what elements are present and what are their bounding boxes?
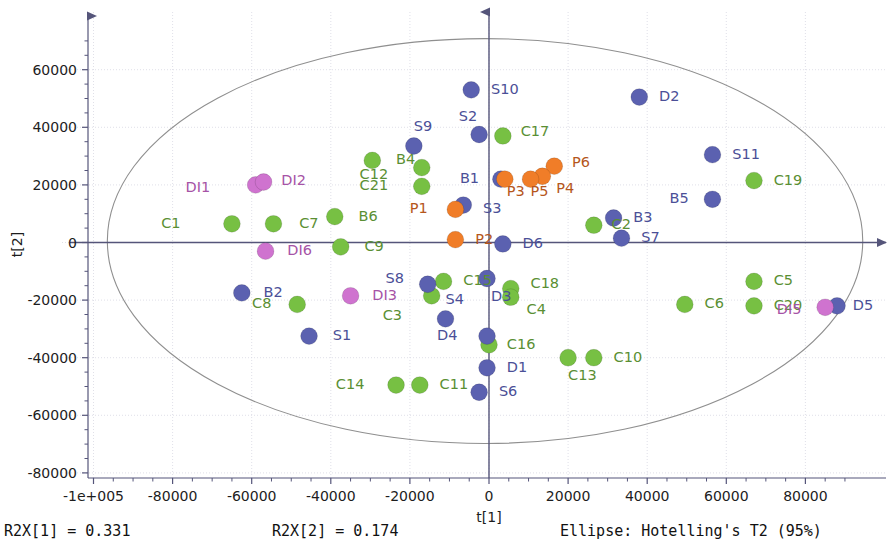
svg-text:0: 0	[485, 488, 494, 504]
svg-text:-40000: -40000	[27, 350, 77, 366]
data-point-di3	[342, 287, 359, 304]
svg-text:-80000: -80000	[148, 488, 198, 504]
data-point-label-c1: C1	[161, 215, 180, 231]
data-point-label-c5: C5	[774, 272, 793, 288]
svg-text:-60000: -60000	[27, 407, 77, 423]
data-point-c13	[560, 349, 577, 366]
data-point-c10	[585, 349, 602, 366]
svg-text:20000: 20000	[32, 177, 77, 193]
data-point-label-s2: S2	[459, 108, 477, 124]
data-point-label-c15: C15	[463, 272, 492, 288]
data-point-label-di3: DI3	[372, 287, 397, 303]
data-point-label-p6: P6	[572, 154, 590, 170]
svg-text:40000: 40000	[32, 119, 77, 135]
svg-text:-40000: -40000	[306, 488, 356, 504]
data-point-s4	[437, 310, 454, 327]
data-point-label-b5: B5	[670, 190, 689, 206]
data-point-label-c18: C18	[531, 275, 560, 291]
data-point-s6	[471, 384, 488, 401]
data-point-label-s1: S1	[333, 327, 351, 343]
data-point-s10	[463, 81, 480, 98]
data-point-label-d4: D4	[437, 327, 457, 343]
data-point-label-s9: S9	[414, 118, 432, 134]
plot-canvas: -1e+005-80000-60000-40000-20000020000400…	[0, 0, 895, 551]
ellipse-note: Ellipse: Hotelling's T2 (95%)	[560, 522, 822, 540]
data-point-label-di5: DI5	[777, 301, 802, 317]
data-point-s2	[471, 126, 488, 143]
svg-text:0: 0	[68, 235, 77, 251]
data-point-d4	[479, 328, 496, 345]
svg-text:-20000: -20000	[27, 292, 77, 308]
data-point-label-c7: C7	[299, 215, 318, 231]
data-point-label-p4: P4	[556, 180, 574, 196]
data-point-s8	[419, 276, 436, 293]
data-point-p2	[447, 231, 464, 248]
data-point-s11	[704, 146, 721, 163]
data-point-label-c13: C13	[568, 367, 597, 383]
data-point-c9	[332, 238, 349, 255]
data-point-label-s8: S8	[386, 270, 404, 286]
data-point-label-p1: P1	[410, 200, 428, 216]
data-point-label-p5: P5	[531, 183, 549, 199]
data-point-label-d3: D3	[491, 288, 511, 304]
data-point-label-c17: C17	[521, 123, 550, 139]
data-point-label-s11: S11	[732, 146, 760, 162]
svg-text:-80000: -80000	[27, 465, 77, 481]
data-point-c14	[388, 377, 405, 394]
svg-text:-20000: -20000	[385, 488, 435, 504]
data-point-label-c2: C2	[612, 216, 631, 232]
svg-text:80000: 80000	[783, 488, 828, 504]
data-point-c8	[289, 296, 306, 313]
data-point-label-b4: B4	[396, 151, 415, 167]
data-point-c21	[413, 178, 430, 195]
data-point-c17	[494, 128, 511, 145]
data-point-b2	[233, 285, 250, 302]
data-point-label-di2: DI2	[281, 172, 306, 188]
data-point-label-di1: DI1	[186, 179, 211, 195]
data-point-label-d1: D1	[507, 359, 527, 375]
data-point-label-di6: DI6	[287, 242, 312, 258]
data-point-label-p2: P2	[475, 231, 493, 247]
data-point-label-d2: D2	[659, 88, 679, 104]
data-point-d6	[494, 236, 511, 253]
svg-text:40000: 40000	[625, 488, 670, 504]
data-point-label-c3: C3	[383, 307, 402, 323]
svg-text:60000: 60000	[704, 488, 749, 504]
data-point-c12	[413, 159, 430, 176]
data-point-di6	[257, 243, 274, 260]
r2x2-stat: R2X[2] = 0.174	[272, 522, 398, 540]
data-point-c7	[265, 215, 282, 232]
data-point-b6	[326, 208, 343, 225]
data-point-label-c14: C14	[336, 376, 365, 392]
data-point-label-b2: B2	[264, 284, 283, 300]
data-point-di5	[817, 299, 834, 316]
svg-text:60000: 60000	[32, 62, 77, 78]
data-point-label-c11: C11	[440, 376, 469, 392]
data-point-label-s4: S4	[445, 291, 463, 307]
data-point-label-b1: B1	[460, 170, 479, 186]
data-point-c6	[676, 296, 693, 313]
data-point-c2	[585, 217, 602, 234]
data-point-d1	[479, 359, 496, 376]
data-point-label-c19: C19	[774, 172, 803, 188]
r2x1-stat: R2X[1] = 0.331	[4, 522, 130, 540]
data-point-label-c21: C21	[360, 177, 389, 193]
data-point-label-s10: S10	[491, 81, 519, 97]
svg-text:t[2]: t[2]	[9, 232, 25, 257]
data-point-label-b3: B3	[633, 209, 652, 225]
svg-text:20000: 20000	[546, 488, 591, 504]
svg-text:-1e+005: -1e+005	[63, 488, 124, 504]
data-point-c1	[224, 215, 241, 232]
data-point-label-b6: B6	[358, 208, 377, 224]
data-point-c11	[411, 377, 428, 394]
data-point-label-c9: C9	[364, 238, 383, 254]
data-point-label-s3: S3	[483, 200, 501, 216]
data-point-labels: C1C7B6C9B4C8C12C21C17C15C3C18C4C16C14C11…	[161, 81, 873, 399]
data-point-b5	[704, 191, 721, 208]
data-point-label-s7: S7	[641, 229, 659, 245]
data-point-label-c6: C6	[705, 295, 724, 311]
data-point-label-c16: C16	[507, 336, 536, 352]
data-point-di2	[255, 174, 272, 191]
data-point-label-d5: D5	[853, 297, 873, 313]
data-point-label-d6: D6	[523, 235, 543, 251]
